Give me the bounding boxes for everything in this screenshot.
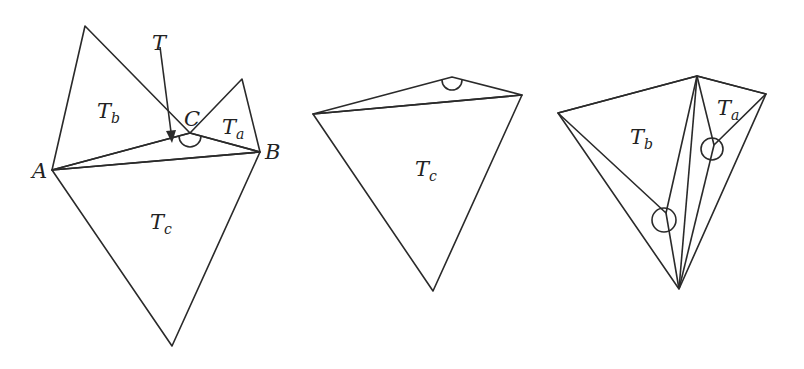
left-panel: Tb Ta Tc T A B C	[30, 26, 280, 346]
angle-arc-apex	[442, 80, 462, 90]
label-vertex-c: C	[184, 107, 200, 131]
fan-line	[666, 213, 679, 289]
label-t: T	[152, 31, 168, 55]
label-ta: Ta	[717, 96, 739, 123]
fan-line	[679, 76, 697, 289]
label-vertex-a: A	[30, 159, 47, 183]
angle-circle-ta	[701, 138, 723, 160]
label-tb: Tb	[630, 125, 653, 152]
right-panel: Tb Ta	[558, 76, 766, 289]
triangle-tc	[313, 95, 522, 291]
triangle-t	[313, 77, 522, 114]
label-vertex-b: B	[264, 140, 280, 164]
arrow-t-line	[160, 47, 171, 132]
label-tc: Tc	[415, 157, 437, 184]
angle-arc-c	[179, 136, 201, 147]
fan-line	[679, 145, 714, 289]
label-tb: Tb	[97, 99, 120, 126]
triangle-diagram: Tb Ta Tc T A B C Tc Tb Ta	[0, 0, 804, 369]
label-tc: Tc	[150, 210, 172, 237]
triangle-tc	[52, 152, 260, 346]
middle-panel: Tc	[313, 77, 522, 291]
triangle-tb	[52, 26, 190, 170]
label-ta: Ta	[222, 115, 244, 142]
